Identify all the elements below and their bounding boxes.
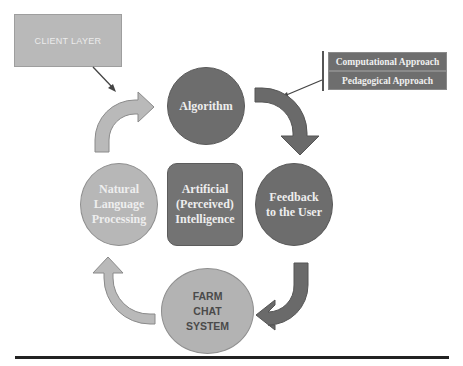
feedback-node: Feedback to the User: [255, 163, 333, 246]
nlp-node: Natural Language Processing: [80, 163, 158, 246]
arrow-algorithm-to-feedback: [255, 88, 319, 155]
ai-label-line-1: Artificial: [175, 182, 234, 197]
arrow-farmchat-to-nlp: [93, 257, 155, 324]
algorithm-node: Algorithm: [167, 67, 245, 145]
client-pointer-line: [93, 67, 113, 88]
nlp-label-line-2: Language: [92, 197, 146, 212]
client-pointer-head: [108, 84, 116, 92]
nlp-label-line-1: Natural: [92, 182, 146, 197]
ai-label-line-2: (Perceived): [175, 197, 234, 212]
approach-pointer-line: [284, 80, 322, 96]
arrow-feedback-to-farmchat: [256, 263, 308, 330]
farm-chat-label-line-2: CHAT: [186, 304, 229, 319]
bottom-rule: [15, 356, 449, 359]
farm-chat-label-line-1: FARM: [186, 289, 229, 304]
ai-label-line-3: Intelligence: [175, 212, 234, 227]
feedback-label-line-1: Feedback: [266, 190, 322, 205]
feedback-label-line-2: to the User: [266, 205, 322, 220]
ai-node: Artificial (Perceived) Intelligence: [167, 163, 243, 246]
arrow-nlp-to-algorithm: [95, 92, 154, 152]
farm-chat-system-node: FARM CHAT SYSTEM: [161, 268, 254, 354]
algorithm-label: Algorithm: [179, 99, 232, 114]
farm-chat-label-line-3: SYSTEM: [186, 319, 229, 334]
nlp-label-line-3: Processing: [92, 212, 146, 227]
